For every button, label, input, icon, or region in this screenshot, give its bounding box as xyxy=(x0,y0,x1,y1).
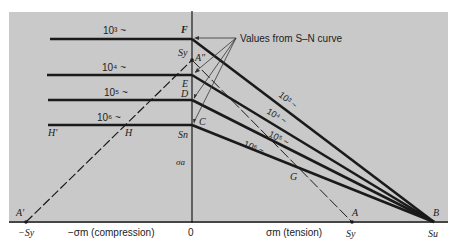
point-a-double-prime xyxy=(190,58,194,62)
label-1e3-left: 10³ ~ xyxy=(103,25,126,36)
point-c: C xyxy=(199,116,206,127)
compression-label: −σm (compression) xyxy=(68,227,154,238)
point-a1-label: A′ xyxy=(15,207,25,218)
point-sn: Sn xyxy=(178,129,188,140)
label-1e6-left: 10⁶ ~ xyxy=(97,112,121,123)
point-g: G xyxy=(290,171,297,182)
point-h-prime: H′ xyxy=(47,127,58,138)
point-h: H xyxy=(124,127,133,138)
su-label: Su xyxy=(428,228,438,239)
point-a-label: A xyxy=(351,207,359,218)
point-a2-label: A″ xyxy=(194,52,206,63)
point-d: D xyxy=(180,88,189,99)
vertical-axis-label: σa xyxy=(176,157,185,167)
annotation-text: Values from S–N curve xyxy=(240,33,343,44)
point-a xyxy=(350,220,354,224)
point-b-label: B xyxy=(433,207,439,218)
label-1e5-left: 10⁵ ~ xyxy=(104,87,128,98)
point-f: F xyxy=(180,24,188,35)
tension-label: σm (tension) xyxy=(266,227,322,238)
origin-label: 0 xyxy=(188,227,194,238)
neg-sy-label: −Sy xyxy=(18,227,35,238)
point-a-prime xyxy=(24,220,28,224)
goodman-diagram: 10³ ~ 10⁴ ~ 10⁵ ~ 10⁶ ~ 10³ ~ 10⁴ ~ 10⁵ … xyxy=(0,0,456,248)
label-1e4-left: 10⁴ ~ xyxy=(102,62,126,73)
pos-sy-label: Sy xyxy=(346,228,356,239)
point-sy-axis: Sy xyxy=(178,47,188,58)
